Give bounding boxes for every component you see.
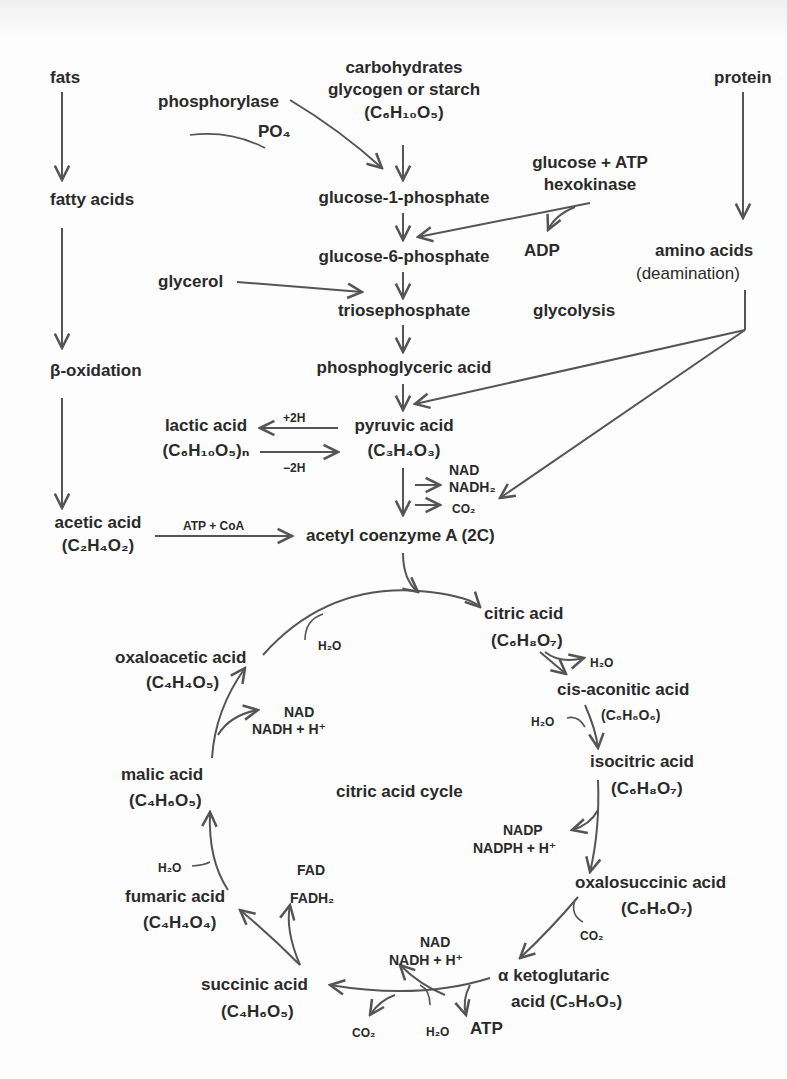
node-succinic-formula: (C₄H₆O₅) xyxy=(221,1002,294,1022)
arrow-co2-kg xyxy=(370,995,395,1015)
label-adp: ADP xyxy=(524,241,560,261)
label-fadh2: FADH₂ xyxy=(290,888,334,908)
label-co2: CO₂ xyxy=(452,499,475,519)
arrow-acetyl-into-cycle xyxy=(403,553,418,592)
node-glucose-1-phosphate: glucose-1-phosphate xyxy=(319,188,490,208)
label-co2-kg: CO₂ xyxy=(352,1023,375,1043)
node-oxaloacetic-acid: oxaloacetic acid xyxy=(115,648,246,668)
arrow-co2-oxalo xyxy=(574,900,583,922)
node-cis-aconitic-acid: cis-aconitic acid xyxy=(557,680,689,700)
label-nadh-kg: NADH + H⁺ xyxy=(389,950,463,970)
label-phosphorylase: phosphorylase xyxy=(158,92,279,112)
arrow-citric-to-cis-aconitic xyxy=(540,652,566,674)
node-oxalosuccinic-formula: (C₆H₆O₇) xyxy=(621,899,692,919)
label-nad-kg: NAD xyxy=(420,932,450,952)
arrow-hexokinase-to-g6p xyxy=(418,203,590,237)
arrow-glycerol-to-triose xyxy=(237,282,362,292)
node-oxalosuccinic-acid: oxalosuccinic acid xyxy=(575,873,726,893)
label-fad: FAD xyxy=(297,860,325,880)
node-succinic-acid: succinic acid xyxy=(201,975,308,995)
arrow-h2o-aconitic xyxy=(567,717,585,727)
label-glucose-atp: glucose + ATP xyxy=(532,153,648,173)
arrow-isocitric-to-oxalosuccinic xyxy=(590,780,598,872)
node-fats: fats xyxy=(50,68,80,88)
node-malic-formula: (C₄H₆O₅) xyxy=(129,791,202,811)
label-nadp: NADP xyxy=(503,820,543,840)
label-nadh2: NADH₂ xyxy=(449,477,496,497)
node-lactic-acid: lactic acid xyxy=(165,416,247,436)
arrow-po4 xyxy=(190,134,265,148)
arrow-amino-to-acetyl-coa xyxy=(500,330,745,498)
node-glycogen-formula: (C₆H₁₀O₅) xyxy=(364,103,443,123)
label-citric-acid-cycle: citric acid cycle xyxy=(336,782,463,802)
node-triosephosphate: triosephosphate xyxy=(338,301,470,321)
node-acetic-acid: acetic acid xyxy=(55,513,142,533)
arrow-ketoglutaric-to-succinic xyxy=(330,978,490,991)
arrow-fumaric-to-malic xyxy=(210,812,228,890)
node-isocitric-acid: isocitric acid xyxy=(590,752,694,772)
node-lactic-formula: (C₆H₁₀O₅)ₙ xyxy=(162,441,249,461)
node-phosphoglyceric-acid: phosphoglyceric acid xyxy=(317,358,492,378)
label-glycerol: glycerol xyxy=(158,272,223,292)
label-hexokinase: hexokinase xyxy=(544,175,637,195)
label-h2o-kg: H₂O xyxy=(426,1022,449,1042)
node-malic-acid: malic acid xyxy=(121,765,203,785)
node-pyruvic-acid: pyruvic acid xyxy=(354,416,453,436)
label-h2o-citric: H₂O xyxy=(590,653,613,673)
node-isocitric-formula: (C₆H₈O₇) xyxy=(611,779,683,799)
node-protein: protein xyxy=(714,68,772,88)
label-deamination: (deamination) xyxy=(636,264,740,284)
node-amino-acids: amino acids xyxy=(655,241,753,261)
node-alpha-ketoglutaric: α ketoglutaric xyxy=(498,966,610,986)
arrow-atp xyxy=(465,985,470,1015)
label-glycolysis: glycolysis xyxy=(533,301,615,321)
label-atp: ATP xyxy=(470,1019,503,1039)
node-beta-oxidation: β-oxidation xyxy=(50,361,142,381)
node-fatty-acids: fatty acids xyxy=(50,190,134,210)
arrow-h2o-fumaric xyxy=(192,862,210,866)
arrow-oxalosuccinic-to-ketoglutaric xyxy=(520,897,578,958)
label-po4: PO₄ xyxy=(258,122,291,142)
node-acetic-formula: (C₂H₄O₂) xyxy=(62,536,134,556)
label-nadph: NADPH + H⁺ xyxy=(473,838,556,858)
node-oxaloacetic-formula: (C₄H₄O₅) xyxy=(146,673,219,693)
node-acetyl-coa: acetyl coenzyme A (2C) xyxy=(306,526,495,546)
label-co2-oxalo: CO₂ xyxy=(580,926,603,946)
label-h2o-aconitic: H₂O xyxy=(531,712,554,732)
label-h2o-oxalo: H₂O xyxy=(318,636,341,656)
node-citric-acid: citric acid xyxy=(484,604,563,624)
node-cis-aconitic-formula: (C₆H₆O₆) xyxy=(601,705,661,725)
arrow-oxaloacetic-to-citric xyxy=(263,590,480,655)
node-glucose-6-phosphate: glucose-6-phosphate xyxy=(319,247,490,267)
label-plus-2h: +2H xyxy=(283,408,305,428)
node-glycogen: glycogen or starch xyxy=(328,80,480,100)
label-h2o-fumaric: H₂O xyxy=(158,858,181,878)
arrow-h2o-out xyxy=(545,652,584,660)
arrow-nadp xyxy=(572,810,598,830)
label-atp-coa: ATP + CoA xyxy=(183,516,244,536)
node-citric-formula: (C₆H₈O₇) xyxy=(491,631,563,651)
node-carbohydrates: carbohydrates xyxy=(345,58,462,78)
node-fumaric-formula: (C₄H₄O₄) xyxy=(143,913,216,933)
label-nadh-malic: NADH + H⁺ xyxy=(252,719,326,739)
node-fumaric-acid: fumaric acid xyxy=(125,887,225,907)
node-alpha-ketoglutaric-formula: acid (C₅H₆O₅) xyxy=(511,992,622,1012)
node-pyruvic-formula: (C₃H₄O₃) xyxy=(368,441,441,461)
label-minus-2h: −2H xyxy=(283,458,305,478)
arrow-aconitic-to-isocitric xyxy=(585,705,598,748)
